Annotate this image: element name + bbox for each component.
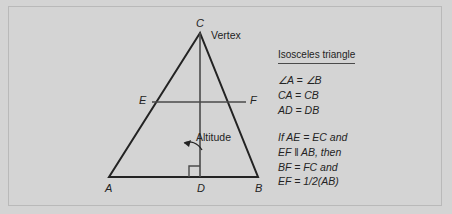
- triangle-outline: [109, 33, 258, 177]
- equation-line: AD = DB: [278, 103, 428, 118]
- equation-line: CA = CB: [278, 88, 428, 103]
- properties-panel: Isosceles triangle ∠A = ∠B CA = CB AD = …: [278, 44, 428, 189]
- label-vertex-b: B: [255, 183, 262, 194]
- conditional-line: EF = 1/2(AB): [278, 174, 428, 189]
- label-vertex-c: C: [196, 18, 204, 29]
- label-point-d: D: [197, 183, 205, 194]
- right-angle-marker: [189, 166, 200, 177]
- conditional-line: If AE = EC and: [278, 130, 428, 145]
- label-vertex-a: A: [105, 183, 112, 194]
- panel-heading: Isosceles triangle: [278, 49, 355, 64]
- label-point-f: F: [250, 95, 257, 106]
- equation-line: ∠A = ∠B: [278, 73, 428, 88]
- label-altitude-callout: Altitude: [196, 132, 231, 143]
- figure-canvas: C Vertex E F Altitude A D B Isosceles tr…: [0, 0, 452, 214]
- label-point-e: E: [139, 95, 146, 106]
- conditional-line: EF ‖ AB, then: [278, 145, 428, 160]
- label-vertex-callout: Vertex: [211, 30, 241, 41]
- equalities-list: ∠A = ∠B CA = CB AD = DB: [278, 73, 428, 118]
- altitude-arrowhead: [184, 140, 191, 147]
- conditional-statement: If AE = EC and EF ‖ AB, then BF = FC and…: [278, 130, 428, 190]
- conditional-line: BF = FC and: [278, 160, 428, 175]
